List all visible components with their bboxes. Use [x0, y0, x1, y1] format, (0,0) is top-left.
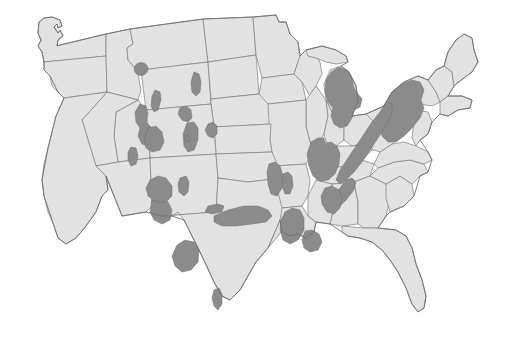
range-patch-montana-central — [134, 63, 148, 76]
state-shape — [214, 124, 272, 154]
state-shape — [208, 55, 259, 99]
range-patch-utah-southeast-dot — [185, 136, 190, 141]
state-shape — [211, 94, 271, 127]
us-map-svg — [0, 0, 508, 349]
range-patch-illinois-east — [282, 172, 293, 194]
us-distribution-map-figure — [0, 0, 508, 349]
state-shape — [203, 17, 256, 62]
